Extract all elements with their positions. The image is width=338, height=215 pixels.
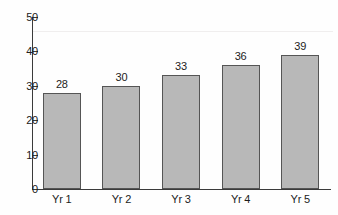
plot-area: 2830333639 — [33, 17, 331, 189]
bar-value-label: 28 — [43, 79, 81, 90]
bar-value-label: 30 — [102, 72, 140, 83]
bar — [43, 93, 81, 189]
bar-group: 30 — [102, 17, 140, 189]
bar — [281, 55, 319, 189]
bar — [162, 75, 200, 189]
x-axis-category-label: Yr 5 — [273, 193, 327, 205]
x-axis-line — [32, 189, 331, 190]
bar-value-label: 39 — [281, 41, 319, 52]
bar-group: 28 — [43, 17, 81, 189]
bar-value-label: 33 — [162, 61, 200, 72]
bar — [102, 86, 140, 189]
bar — [222, 65, 260, 189]
bar-value-label: 36 — [222, 51, 260, 62]
bar-group: 36 — [222, 17, 260, 189]
bar-group: 33 — [162, 17, 200, 189]
x-axis-category-label: Yr 1 — [35, 193, 89, 205]
x-axis-category-label: Yr 3 — [154, 193, 208, 205]
bar-group: 39 — [281, 17, 319, 189]
x-axis-category-label: Yr 4 — [214, 193, 268, 205]
x-axis-category-label: Yr 2 — [94, 193, 148, 205]
y-axis-tick-label-wrap: 0 — [0, 189, 38, 190]
bar-chart: 01020304050 2830333639 Yr 1Yr 2Yr 3Yr 4Y… — [0, 0, 338, 215]
